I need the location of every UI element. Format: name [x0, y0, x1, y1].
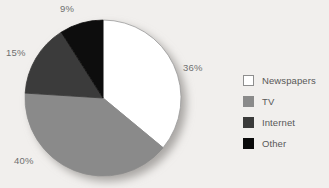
pie-slices-group: [25, 20, 181, 176]
legend-item-label: Internet: [262, 117, 295, 128]
legend-swatch-icon: [243, 117, 254, 128]
chart-legend: NewspapersTVInternetOther: [243, 70, 327, 154]
legend-item-internet[interactable]: Internet: [243, 112, 327, 133]
legend-item-label: TV: [262, 96, 274, 107]
pie-chart-plot-area: 36% 40% 15% 9%: [0, 0, 210, 188]
legend-item-label: Other: [262, 138, 286, 149]
legend-item-label: Newspapers: [262, 75, 316, 86]
legend-swatch-icon: [243, 96, 254, 107]
pie-label-other: 9%: [60, 3, 74, 14]
legend-item-newspapers[interactable]: Newspapers: [243, 70, 327, 91]
pie-chart-figure: 36% 40% 15% 9% NewspapersTVInternetOther: [0, 0, 329, 188]
pie-label-tv: 40%: [14, 155, 34, 166]
pie-label-internet: 15%: [6, 47, 26, 58]
pie-label-newspapers: 36%: [183, 62, 203, 73]
legend-swatch-icon: [243, 138, 254, 149]
legend-item-other[interactable]: Other: [243, 133, 327, 154]
legend-swatch-icon: [243, 75, 254, 86]
legend-item-tv[interactable]: TV: [243, 91, 327, 112]
